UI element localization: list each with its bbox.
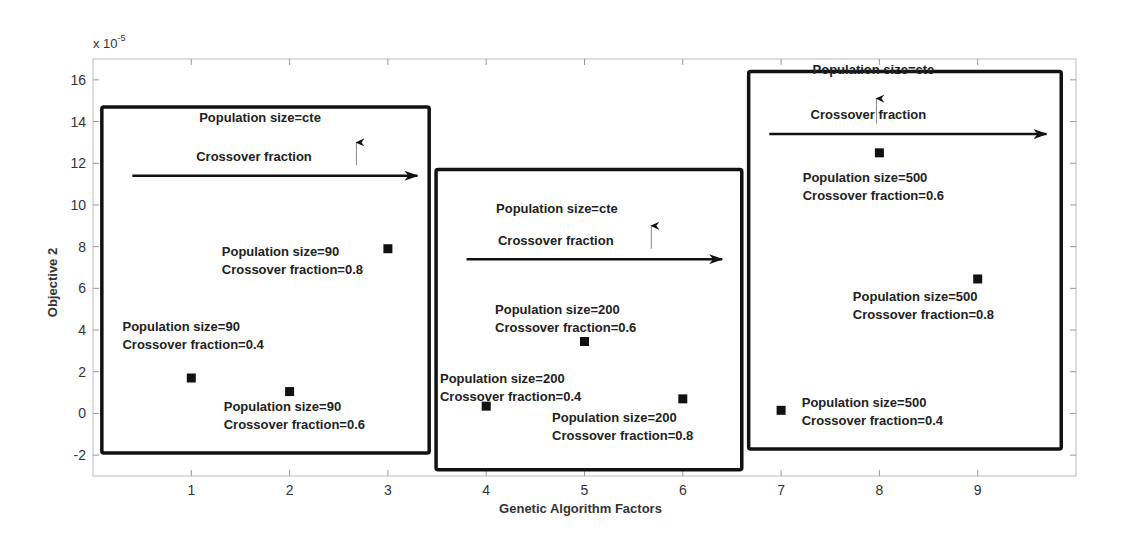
population-size-label: Population size=500 [803, 170, 928, 185]
population-size-label: Population size=500 [853, 289, 978, 304]
crossover-fraction-value-label: Crossover fraction=0.4 [440, 389, 582, 404]
population-size-label: Population size=90 [224, 399, 341, 414]
population-size-label: Population size=200 [440, 371, 565, 386]
crossover-fraction-value-label: Crossover fraction=0.6 [495, 320, 636, 335]
y-tick-label: 0 [78, 405, 86, 421]
data-point-square [187, 374, 196, 383]
data-point-square [777, 406, 786, 415]
data-point-square [875, 148, 884, 157]
y-tick-label: -2 [74, 447, 87, 463]
x-tick-label: 6 [679, 482, 687, 498]
y-axis-scale-factor: x 10-5 [93, 33, 126, 51]
x-tick-label: 1 [187, 482, 195, 498]
x-tick-label: 8 [876, 482, 884, 498]
y-tick-label: 14 [70, 114, 86, 130]
x-tick-label: 2 [286, 482, 294, 498]
y-tick-label: 2 [78, 364, 86, 380]
y-tick-label: 10 [70, 197, 86, 213]
group-header-label: Population size=cte [813, 62, 935, 77]
crossover-fraction-value-label: Crossover fraction=0.4 [802, 413, 944, 428]
population-size-label: Population size=90 [222, 244, 339, 259]
x-tick-label: 9 [974, 482, 982, 498]
y-tick-label: 12 [70, 155, 86, 171]
crossover-fraction-value-label: Crossover fraction=0.6 [224, 417, 365, 432]
crossover-fraction-value-label: Crossover fraction=0.4 [122, 337, 264, 352]
population-size-label: Population size=500 [802, 395, 927, 410]
data-point-square [678, 394, 687, 403]
scatter-chart: 123456789-20246810121416 Population size… [0, 0, 1123, 535]
y-tick-label: 16 [70, 72, 86, 88]
group-header-label: Population size=cte [496, 201, 618, 216]
crossover-fraction-value-label: Crossover fraction=0.8 [853, 307, 994, 322]
crossover-fraction-label: Crossover fraction [498, 233, 614, 248]
population-size-label: Population size=200 [495, 302, 620, 317]
y-tick-label: 4 [78, 322, 86, 338]
crossover-fraction-label: Crossover fraction [196, 149, 312, 164]
y-axis-title: Objective 2 [45, 248, 60, 317]
x-tick-label: 5 [581, 482, 589, 498]
crossover-fraction-value-label: Crossover fraction=0.8 [552, 428, 693, 443]
group-header-label: Population size=cte [199, 110, 321, 125]
population-size-label: Population size=200 [552, 410, 677, 425]
crossover-fraction-value-label: Crossover fraction=0.8 [222, 262, 363, 277]
population-size-label: Population size=90 [122, 319, 239, 334]
data-point-square [973, 274, 982, 283]
y-scale-base: x 10 [93, 36, 118, 51]
crossover-fraction-value-label: Crossover fraction=0.6 [803, 188, 944, 203]
data-point-square [383, 244, 392, 253]
x-axis-title: Genetic Algorithm Factors [499, 501, 662, 516]
x-tick-label: 4 [482, 482, 490, 498]
y-scale-exponent: -5 [118, 33, 126, 43]
crossover-fraction-label: Crossover fraction [811, 107, 927, 122]
y-tick-label: 6 [78, 280, 86, 296]
y-tick-label: 8 [78, 239, 86, 255]
data-point-square [285, 387, 294, 396]
x-tick-label: 3 [384, 482, 392, 498]
x-tick-label: 7 [777, 482, 785, 498]
data-point-square [580, 337, 589, 346]
